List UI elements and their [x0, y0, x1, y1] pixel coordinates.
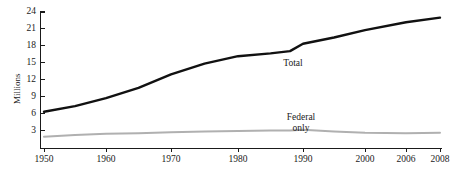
- x-tick-label-1980: 1980: [218, 154, 258, 164]
- y-tick-label-12: 12: [10, 74, 36, 84]
- x-tick-label-2000: 2000: [345, 154, 385, 164]
- x-tick-label-1960: 1960: [86, 154, 126, 164]
- y-tick-label-3: 3: [10, 125, 36, 135]
- y-tick-label-15: 15: [10, 57, 36, 67]
- x-tick-label-1970: 1970: [151, 154, 191, 164]
- series-label-federal-only-line1: Federal: [275, 112, 327, 123]
- chart-container: Millions 3691215182124 19501960197019801…: [0, 0, 451, 177]
- x-tick-label-1950: 1950: [24, 154, 64, 164]
- series-label-total: Total: [271, 58, 315, 69]
- y-tick-label-9: 9: [10, 91, 36, 101]
- series-label-federal-only: Federal only: [275, 112, 327, 133]
- y-tick-label-18: 18: [10, 40, 36, 50]
- y-tick-label-6: 6: [10, 108, 36, 118]
- line-chart-plot: [0, 0, 451, 177]
- y-tick-label-21: 21: [10, 23, 36, 33]
- series-label-federal-only-line2: only: [275, 123, 327, 134]
- x-tick-label-1990: 1990: [283, 154, 323, 164]
- y-tick-label-24: 24: [10, 6, 36, 16]
- x-tick-label-2008: 2008: [420, 154, 451, 164]
